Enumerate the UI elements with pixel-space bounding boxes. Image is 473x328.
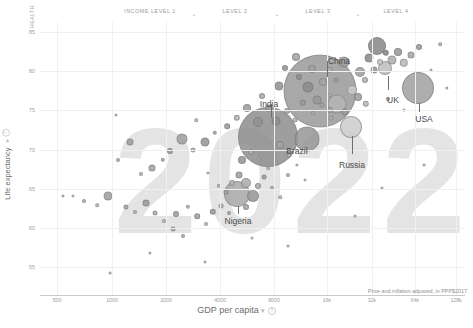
bubble-data-point[interactable] — [259, 93, 265, 99]
gapminder-bubble-chart: HEALTH INCOME LEVEL 1LEVEL 2LEVEL 3LEVEL… — [0, 0, 473, 328]
chevron-down-icon-y[interactable]: ▾ — [5, 138, 11, 145]
bubble-data-point[interactable] — [206, 171, 209, 174]
bubble-data-point[interactable] — [243, 204, 249, 210]
bubble-data-point[interactable] — [394, 48, 402, 56]
y-axis-title-label: Life expectancy — [3, 148, 12, 200]
bubble-data-point[interactable] — [241, 178, 251, 188]
x-axis-tick-label: 8000 — [268, 297, 280, 303]
x-axis-title-label: GDP per capita — [197, 305, 258, 315]
y-axis-tick-label: 65 — [29, 186, 35, 192]
bubble-data-point[interactable] — [416, 44, 422, 50]
bubble-data-point[interactable] — [153, 211, 158, 216]
bubble-data-point[interactable] — [334, 78, 339, 83]
bubble-data-point[interactable] — [328, 93, 332, 97]
bubble-data-point[interactable] — [319, 78, 327, 86]
bubble-data-point[interactable] — [438, 42, 442, 46]
bubble-data-point[interactable] — [354, 215, 357, 218]
bubble-data-point[interactable] — [276, 141, 284, 149]
bubble-data-point[interactable] — [173, 211, 179, 217]
bubble-data-point[interactable] — [354, 93, 362, 101]
bubble-layer[interactable] — [40, 22, 465, 295]
bubble-data-point[interactable] — [109, 272, 112, 275]
bubble-data-point[interactable] — [149, 165, 156, 172]
bubble-data-point[interactable] — [293, 118, 298, 123]
bubble-data-point[interactable] — [278, 195, 282, 199]
bubble-data-point[interactable] — [286, 173, 290, 177]
bubble-data-point[interactable] — [82, 199, 86, 203]
bubble-data-point[interactable] — [238, 107, 298, 167]
bubble-data-point[interactable] — [295, 127, 320, 152]
bubble-data-point[interactable] — [303, 82, 314, 93]
info-icon-y[interactable]: ? — [2, 128, 10, 136]
bubble-data-point[interactable] — [313, 96, 322, 105]
bubble-data-point[interactable] — [204, 222, 208, 226]
bubble-data-point[interactable] — [262, 175, 267, 180]
gridline-vertical — [220, 22, 221, 295]
y-axis-title[interactable]: Life expectancy ▾ ? — [2, 128, 12, 199]
bubble-data-point[interactable] — [143, 200, 150, 207]
bubble-data-point[interactable] — [272, 117, 281, 126]
y-axis-tick-label: 60 — [29, 225, 35, 231]
bubble-data-point[interactable] — [445, 86, 448, 89]
x-axis-title[interactable]: GDP per capita ▾ ? — [0, 305, 473, 315]
bubble-data-point[interactable] — [204, 261, 207, 264]
bubble-data-point[interactable] — [311, 111, 315, 115]
bubble-data-point[interactable] — [329, 116, 334, 121]
bubble-data-point[interactable] — [266, 166, 270, 170]
bubble-data-point[interactable] — [116, 158, 120, 162]
bubble-data-point[interactable] — [362, 77, 368, 83]
bubble-data-point[interactable] — [339, 57, 350, 68]
bubble-data-point[interactable] — [388, 56, 397, 65]
bubble-data-point[interactable] — [287, 245, 290, 248]
gridline-vertical — [274, 22, 275, 295]
bubble-data-point[interactable] — [275, 82, 284, 91]
bubble-data-point[interactable] — [287, 153, 292, 158]
info-icon[interactable]: ? — [268, 307, 276, 315]
bubble-data-point[interactable] — [95, 203, 99, 207]
bubble-data-point[interactable] — [127, 139, 134, 146]
bubble-data-point[interactable] — [201, 138, 210, 147]
bubble-data-point[interactable] — [408, 52, 415, 59]
bubble-data-point[interactable] — [400, 59, 408, 67]
bubble-data-point[interactable] — [227, 211, 231, 215]
bubble-data-point[interactable] — [296, 74, 302, 80]
bubble-data-point[interactable] — [236, 172, 243, 179]
bubble-data-point[interactable] — [161, 158, 165, 162]
bubble-data-point[interactable] — [186, 205, 190, 209]
bubble-data-point[interactable] — [247, 190, 259, 202]
bubble-data-point[interactable] — [251, 237, 254, 240]
bubble-data-point[interactable] — [123, 204, 128, 209]
bubble-data-point[interactable] — [423, 164, 426, 167]
y-axis-tick-label: 55 — [29, 264, 35, 270]
bubble-data-point[interactable] — [282, 65, 288, 71]
bubble-data-point[interactable] — [383, 50, 389, 56]
bubble-data-point[interactable] — [61, 194, 64, 197]
bubble-data-point[interactable] — [114, 113, 117, 116]
bubble-data-point[interactable] — [304, 179, 307, 182]
bubble-data-point[interactable] — [224, 123, 230, 129]
bubble-data-point[interactable] — [238, 156, 246, 164]
bubble-data-point[interactable] — [210, 209, 216, 215]
bubble-data-point[interactable] — [377, 59, 383, 65]
bubble-data-point[interactable] — [194, 213, 200, 219]
plot-area[interactable]: 2022 — [40, 22, 465, 295]
bubble-data-point[interactable] — [229, 180, 235, 186]
chevron-down-icon[interactable]: ▾ — [261, 307, 265, 314]
bubble-data-point[interactable] — [181, 234, 185, 238]
bubble-data-point[interactable] — [213, 131, 217, 135]
bubble-data-point[interactable] — [133, 210, 137, 214]
bubble-data-point[interactable] — [148, 251, 151, 254]
bubble-data-point[interactable] — [340, 116, 362, 138]
bubble-data-point[interactable] — [402, 72, 434, 104]
bubble-data-point[interactable] — [363, 101, 369, 107]
bubble-data-point[interactable] — [292, 53, 300, 61]
bubble-data-point[interactable] — [386, 97, 390, 101]
gridline-horizontal — [40, 110, 465, 111]
bubble-data-point[interactable] — [139, 172, 143, 176]
bubble-data-point[interactable] — [234, 115, 240, 121]
bubble-data-point[interactable] — [72, 195, 75, 198]
bubble-data-point[interactable] — [194, 118, 198, 122]
bubble-data-point[interactable] — [295, 163, 298, 166]
bubble-data-point[interactable] — [177, 134, 188, 145]
bubble-data-point[interactable] — [253, 117, 263, 127]
